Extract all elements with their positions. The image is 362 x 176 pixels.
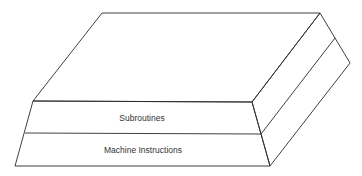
top-face [33, 13, 320, 102]
side-face [252, 13, 350, 166]
layer-divider-side [261, 38, 335, 134]
layer-label-machine-instructions: Machine Instructions [104, 145, 182, 155]
layer-label-subroutines: Subroutines [119, 113, 164, 123]
layer-divider-front [25, 133, 261, 134]
